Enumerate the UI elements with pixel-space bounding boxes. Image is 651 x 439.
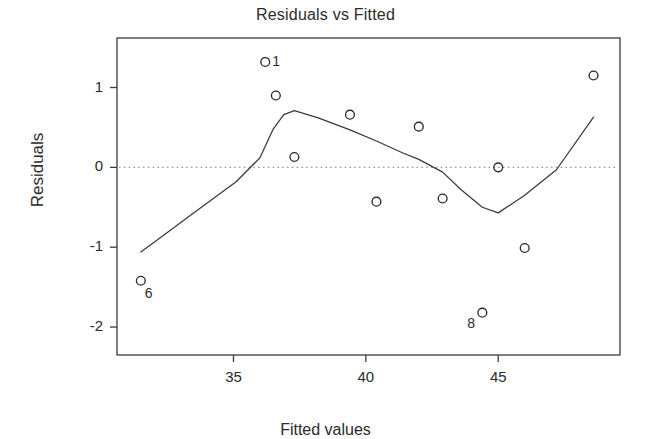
data-point-marker (372, 197, 381, 206)
y-tick-label: 1 (45, 78, 103, 95)
data-point-marker (346, 110, 355, 119)
data-point-marker (520, 244, 529, 253)
axis-ticks (110, 88, 498, 362)
x-tick-label: 35 (203, 368, 263, 385)
point-label: 6 (145, 285, 153, 301)
y-tick-label: -1 (45, 237, 103, 254)
y-tick-label: -2 (45, 317, 103, 334)
y-tick-label: 0 (45, 157, 103, 174)
data-point-marker (271, 91, 280, 100)
x-tick-label: 40 (336, 368, 396, 385)
plot-frame (117, 38, 620, 355)
point-label: 8 (467, 315, 475, 331)
data-point-markers (136, 58, 597, 318)
lowess-smooth-curve (141, 111, 594, 252)
data-point-marker (438, 194, 447, 203)
data-point-marker (414, 122, 423, 131)
data-point-marker (589, 71, 598, 80)
data-point-marker (478, 308, 487, 317)
point-label: 1 (272, 53, 280, 69)
data-point-marker (290, 153, 299, 162)
x-tick-label: 45 (468, 368, 528, 385)
data-point-marker (261, 58, 270, 67)
